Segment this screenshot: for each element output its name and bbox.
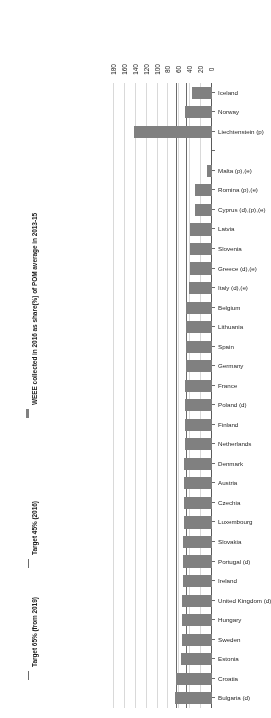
bar-row	[114, 341, 212, 353]
bar	[190, 243, 212, 255]
category-tick	[212, 561, 215, 562]
bar-row	[114, 204, 212, 216]
legend-label: Target 65% (from 2019)	[31, 597, 38, 667]
bar-row	[114, 653, 212, 665]
category-tick	[212, 111, 215, 112]
bar	[186, 321, 212, 333]
bar-row	[114, 165, 212, 177]
chart-figure: Bulgaria (d)CroatiaEstoniaSwedenHungaryU…	[0, 0, 227, 718]
bar	[184, 458, 212, 470]
category-label: Slovenia	[218, 244, 227, 254]
bar	[185, 106, 212, 118]
category-tick	[212, 502, 215, 503]
category-label: Malta (p),(e)	[218, 166, 227, 176]
bar	[182, 595, 212, 607]
category-label: Lithuania	[218, 322, 227, 332]
bar	[181, 653, 212, 665]
bar-row	[114, 692, 212, 704]
x-tick-label: 180	[111, 61, 118, 79]
bar	[175, 692, 212, 704]
bar-row	[114, 399, 212, 411]
category-tick	[212, 697, 215, 698]
x-tick-label: 160	[121, 61, 128, 79]
bar	[184, 477, 212, 489]
bar-row	[114, 87, 212, 99]
bar-row	[114, 223, 212, 235]
legend-swatch	[28, 671, 29, 680]
category-label: France	[218, 381, 227, 391]
category-tick	[212, 307, 215, 308]
category-label: United Kingdom (d)	[218, 596, 227, 606]
bar	[184, 497, 212, 509]
category-label: Austria	[218, 478, 227, 488]
bar-row	[114, 243, 212, 255]
x-tick-label: 80	[165, 61, 172, 79]
category-label: Romina (p),(e)	[218, 185, 227, 195]
bar-row	[114, 634, 212, 646]
bar	[189, 282, 212, 294]
bar	[186, 341, 212, 353]
category-label: Belgium	[218, 303, 227, 313]
category-tick	[212, 248, 215, 249]
bar-row	[114, 302, 212, 314]
category-tick	[212, 619, 215, 620]
bar	[207, 165, 212, 177]
category-tick	[212, 658, 215, 659]
category-tick	[212, 209, 215, 210]
legend-label: Target 45% (2016)	[31, 501, 38, 555]
bar	[182, 634, 212, 646]
x-tick-label: 40	[187, 61, 194, 79]
bar	[190, 223, 212, 235]
category-tick	[212, 541, 215, 542]
category-label: Slovakia	[218, 537, 227, 547]
category-tick	[212, 443, 215, 444]
category-label: Hungary	[218, 615, 227, 625]
category-label: Iceland	[218, 88, 227, 98]
bar	[185, 380, 212, 392]
category-tick	[212, 92, 215, 93]
rotated-figure: Bulgaria (d)CroatiaEstoniaSwedenHungaryU…	[0, 0, 227, 718]
category-tick	[212, 385, 215, 386]
category-label: Spain	[218, 342, 227, 352]
bar	[185, 419, 212, 431]
category-tick	[212, 131, 215, 132]
category-tick	[212, 482, 215, 483]
bar-row	[114, 536, 212, 548]
category-label: Liechtenstein (p)	[218, 127, 227, 137]
bar-row	[114, 595, 212, 607]
bar-row	[114, 282, 212, 294]
legend-swatch	[26, 409, 29, 418]
category-tick	[212, 346, 215, 347]
category-tick	[212, 365, 215, 366]
category-label: Greece (d),(e)	[218, 264, 227, 274]
category-tick	[212, 287, 215, 288]
bar-row	[114, 321, 212, 333]
bar	[134, 126, 212, 138]
bar	[183, 575, 212, 587]
bar-rows: Bulgaria (d)CroatiaEstoniaSwedenHungaryU…	[114, 83, 212, 708]
category-label: Denmark	[218, 459, 227, 469]
category-tick	[212, 580, 215, 581]
category-label: Poland (d)	[218, 400, 227, 410]
category-tick	[212, 600, 215, 601]
category-tick	[212, 268, 215, 269]
bar-row	[114, 516, 212, 528]
category-label: Czechia	[218, 498, 227, 508]
category-tick	[212, 170, 215, 171]
bar-row	[114, 555, 212, 567]
bar	[183, 536, 212, 548]
category-tick	[212, 326, 215, 327]
x-tick-label: 100	[154, 61, 161, 79]
category-tick	[212, 228, 215, 229]
value-axis: 020406080100120140160180	[114, 41, 212, 81]
category-label: Croatia	[218, 674, 227, 684]
x-tick-label: 140	[132, 61, 139, 79]
category-label: Norway	[218, 107, 227, 117]
category-label: Latvia	[218, 224, 227, 234]
x-tick-label: 120	[143, 61, 150, 79]
bar-row	[114, 477, 212, 489]
bar-row	[114, 145, 212, 157]
category-tick	[212, 424, 215, 425]
category-tick	[212, 150, 215, 151]
x-tick-label: 20	[198, 61, 205, 79]
